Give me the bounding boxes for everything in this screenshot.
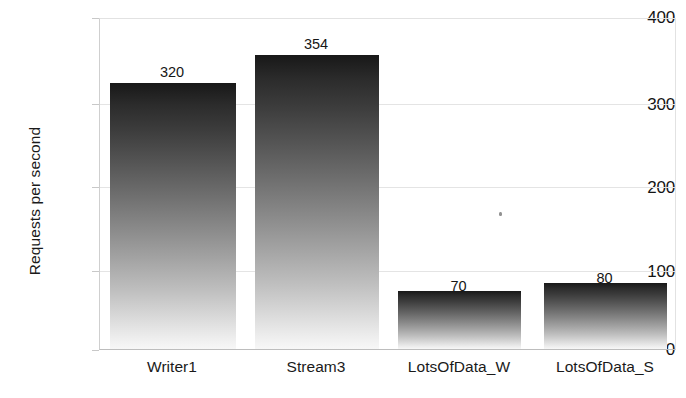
y-tick-mark-100 [92, 271, 99, 272]
y-tick-mark-400 [92, 18, 99, 19]
y-tick-mark-300 [92, 104, 99, 105]
y-tick-mark-0 [92, 350, 99, 351]
bar-value-writer1: 320 [109, 64, 235, 80]
scan-speck [499, 212, 502, 216]
x-category-label-stream3: Stream3 [254, 358, 378, 376]
bar-lotsofdata-w [398, 291, 521, 349]
bar-value-stream3: 354 [254, 36, 378, 52]
bar-writer1 [110, 83, 236, 349]
y-axis-title: Requests per second [26, 86, 44, 316]
bar-stream3 [255, 55, 379, 349]
x-category-label-lotsofdata-w: LotsOfData_W [389, 358, 529, 376]
y-tick-mark-200 [92, 187, 99, 188]
bar-value-lotsofdata-s: 80 [543, 270, 666, 286]
bar-chart: Requests per second 400 300 200 100 0 32… [0, 0, 686, 398]
bar-value-lotsofdata-w: 70 [397, 278, 520, 294]
x-category-label-lotsofdata-s: LotsOfData_S [535, 358, 675, 376]
bar-lotsofdata-s [544, 283, 667, 349]
x-category-label-writer1: Writer1 [109, 358, 235, 376]
